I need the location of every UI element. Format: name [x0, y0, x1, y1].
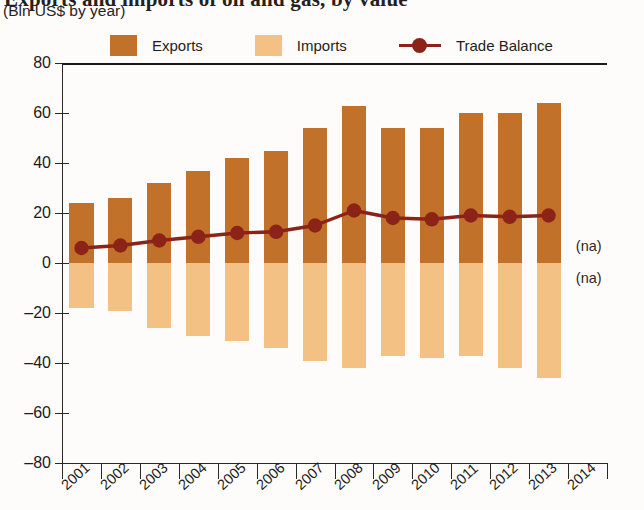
x-tick-label-2011: 2011 [447, 460, 481, 493]
legend-label-trade-balance: Trade Balance [456, 37, 553, 54]
x-tick-label-2001: 2001 [58, 459, 93, 492]
trade-balance-marker-2009 [386, 211, 400, 225]
trade-balance-marker-2006 [269, 225, 283, 239]
legend-label-exports: Exports [152, 37, 203, 54]
na-label-below: (na) [576, 270, 602, 286]
trade-balance-marker-2005 [230, 226, 244, 240]
legend-item-imports: Imports [255, 35, 399, 56]
y-tick-label-20: 20 [33, 204, 51, 222]
y-tick-label--40: –40 [24, 354, 51, 372]
trade-balance-line-icon [399, 37, 441, 53]
legend-label-imports: Imports [297, 37, 347, 54]
x-tick-label-2007: 2007 [292, 459, 327, 492]
trade-balance-marker-2010 [425, 212, 439, 226]
imports-swatch-icon [255, 35, 282, 56]
y-tick-label-60: 60 [33, 104, 51, 122]
chart-legend: Exports Imports Trade Balance [110, 33, 605, 57]
trade-balance-series [62, 63, 607, 463]
y-tick-label--80: –80 [24, 454, 51, 472]
x-tick-label-2002: 2002 [97, 459, 132, 492]
na-label-above: (na) [576, 238, 602, 254]
x-tick-label-2010: 2010 [408, 459, 443, 492]
x-tick-label-2009: 2009 [369, 459, 404, 492]
exports-swatch-icon [110, 35, 137, 56]
legend-item-trade-balance: Trade Balance [399, 37, 605, 54]
x-tick-label-2008: 2008 [331, 459, 366, 492]
y-tick-label--60: –60 [24, 404, 51, 422]
y-tick-label--20: –20 [24, 304, 51, 322]
x-tick-label-2012: 2012 [486, 459, 521, 492]
x-tick-end [607, 463, 608, 479]
x-tick-label-2003: 2003 [136, 459, 171, 492]
chart-figure: Exports and imports of oil and gas, by v… [0, 0, 644, 510]
trade-balance-marker-2008 [347, 203, 361, 217]
x-tick-label-2005: 2005 [214, 459, 249, 492]
chart-subtitle: (Bln US$ by year) [3, 2, 125, 20]
x-tick-label-2013: 2013 [525, 459, 560, 492]
legend-line-marker [412, 38, 427, 53]
trade-balance-marker-2004 [191, 230, 205, 244]
x-tick-label-2014: 2014 [564, 459, 599, 492]
legend-item-exports: Exports [110, 35, 255, 56]
trade-balance-marker-2011 [464, 208, 478, 222]
plot-area: 806040200–20–40–60–80 (na) (na) [62, 63, 607, 463]
x-tick-label-2006: 2006 [253, 459, 288, 492]
y-tick-label-40: 40 [33, 154, 51, 172]
y-tick-label-0: 0 [42, 254, 51, 272]
y-tick-label-80: 80 [33, 54, 51, 72]
trade-balance-marker-2012 [503, 210, 517, 224]
trade-balance-marker-2007 [308, 218, 322, 232]
trade-balance-marker-2002 [113, 238, 127, 252]
trade-balance-marker-2001 [74, 241, 88, 255]
x-tick-label-2004: 2004 [175, 459, 210, 492]
trade-balance-marker-2003 [152, 233, 166, 247]
trade-balance-marker-2013 [541, 208, 555, 222]
